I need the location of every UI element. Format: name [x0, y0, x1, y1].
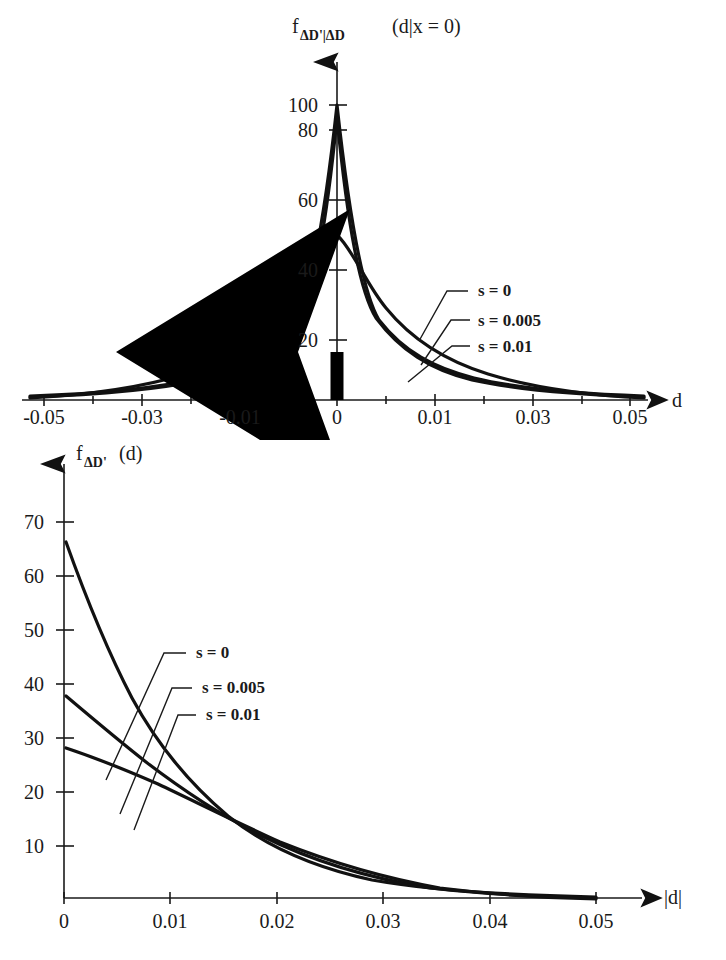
- bottom-ytick-5: 60: [24, 565, 44, 587]
- figure-container: -0.05 -0.03 -0.01 0 0.01 0.03 0.05 20 40…: [0, 0, 726, 960]
- bottom-legend-label-1: s = 0.005: [202, 678, 265, 697]
- bottom-curve-s0: [66, 542, 596, 897]
- bottom-title-argument: (d): [119, 442, 142, 465]
- bottom-legend: s = 0 s = 0.005 s = 0.01: [106, 643, 265, 830]
- top-chart-title: f ΔD'|ΔD (d|x = 0): [292, 15, 461, 43]
- bottom-x-axis-label: |d|: [664, 886, 682, 909]
- top-ytick-1: 40: [298, 259, 318, 281]
- top-title-subscript: ΔD'|ΔD: [300, 28, 345, 43]
- bottom-legend-label-0: s = 0: [196, 643, 229, 662]
- top-ytick-4: 100: [288, 94, 318, 116]
- bottom-title-f: f: [76, 442, 83, 464]
- bottom-curve-s001: [66, 748, 596, 899]
- bottom-y-ticks: [56, 522, 74, 846]
- top-xtick-0: -0.05: [23, 406, 65, 428]
- top-leader-s0: [419, 291, 468, 341]
- bottom-ytick-3: 40: [24, 673, 44, 695]
- top-xtick-6: 0.05: [613, 406, 648, 428]
- top-ytick-2: 60: [298, 189, 318, 211]
- bottom-xtick-2: 0.02: [260, 910, 295, 932]
- top-ytick-0: 20: [298, 329, 318, 351]
- top-title-f: f: [292, 15, 299, 37]
- bottom-leader-s001: [134, 715, 196, 830]
- bottom-legend-label-2: s = 0.01: [206, 705, 261, 724]
- bottom-ytick-2: 30: [24, 727, 44, 749]
- top-legend-label-0: s = 0: [478, 281, 511, 300]
- bottom-xtick-4: 0.04: [473, 910, 508, 932]
- bottom-xtick-0: 0: [59, 910, 69, 932]
- bottom-xtick-3: 0.03: [366, 910, 401, 932]
- bottom-title-subscript: ΔD': [84, 455, 107, 470]
- top-legend: s = 0 s = 0.005 s = 0.01: [408, 281, 541, 382]
- top-chart: -0.05 -0.03 -0.01 0 0.01 0.03 0.05 20 40…: [0, 0, 726, 440]
- top-xtick-5: 0.03: [516, 406, 551, 428]
- bottom-ytick-6: 70: [24, 511, 44, 533]
- top-y-tick-labels: 20 40 60 80 100: [288, 94, 318, 351]
- bottom-y-tick-labels: 10 20 30 40 50 60 70: [24, 511, 44, 857]
- top-xtick-3: 0: [332, 406, 342, 428]
- top-ytick-3: 80: [298, 119, 318, 141]
- top-legend-label-2: s = 0.01: [478, 337, 533, 356]
- bottom-ytick-4: 50: [24, 619, 44, 641]
- top-xtick-2: -0.01: [219, 406, 261, 428]
- top-x-tick-labels: -0.05 -0.03 -0.01 0 0.01 0.03 0.05: [23, 406, 647, 428]
- top-xtick-1: -0.03: [121, 406, 163, 428]
- bottom-chart: 0 0.01 0.02 0.03 0.04 0.05 10 20 30 40 5…: [0, 440, 726, 960]
- top-title-argument: (d|x = 0): [392, 15, 461, 38]
- bottom-xtick-1: 0.01: [153, 910, 188, 932]
- top-x-axis-label: d: [672, 389, 682, 411]
- bottom-chart-title: f ΔD' (d): [76, 442, 142, 470]
- top-xtick-4: 0.01: [418, 406, 453, 428]
- bottom-xtick-5: 0.05: [579, 910, 614, 932]
- bottom-ytick-1: 20: [24, 781, 44, 803]
- top-legend-label-1: s = 0.005: [478, 311, 541, 330]
- bottom-ytick-0: 10: [24, 835, 44, 857]
- bottom-x-tick-labels: 0 0.01 0.02 0.03 0.04 0.05: [59, 910, 614, 932]
